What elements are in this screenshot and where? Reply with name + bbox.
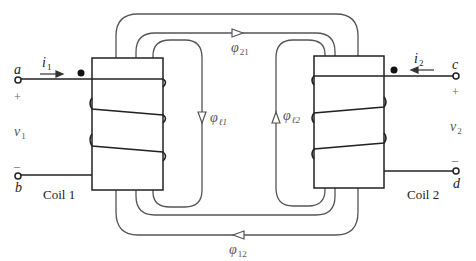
arrow-phil2-icon (272, 112, 280, 123)
voltage-v1-label: v1 (14, 125, 26, 141)
arrow-phil1-icon (198, 112, 206, 123)
flux-path-phi21 (136, 33, 335, 215)
coil2-minus-sign: – (452, 154, 458, 166)
flux-phi21-label: φ21 (231, 41, 249, 57)
terminal-b (15, 173, 21, 179)
flux-phi12-label: φ12 (229, 243, 247, 259)
arrow-phi12-icon (233, 231, 244, 239)
current-i2-label: i2 (414, 52, 423, 68)
coil1-minus-sign: – (14, 160, 20, 172)
coil1-plus-sign: + (14, 91, 21, 103)
current-arrow-i1-icon (56, 71, 63, 77)
coil1-label: Coil 1 (43, 188, 75, 201)
coil2-label: Coil 2 (407, 188, 439, 201)
polarity-dot-coil1 (78, 70, 85, 77)
polarity-dot-coil2 (391, 67, 398, 74)
terminal-c (453, 73, 459, 79)
current-i1-label: i1 (42, 56, 51, 72)
coil1-core (92, 58, 163, 190)
terminal-a (15, 77, 21, 83)
terminal-c-label: c (452, 58, 458, 72)
terminal-d-label: d (453, 177, 460, 191)
flux-phil1-label: φℓ1 (210, 111, 227, 127)
voltage-v2-label: v2 (450, 120, 462, 136)
terminal-b-label: b (15, 181, 22, 195)
arrow-phi21-icon (232, 29, 243, 37)
coil2-plus-sign: + (452, 86, 459, 98)
terminal-d (453, 168, 459, 174)
terminal-a-label: a (14, 63, 21, 77)
flux-phil2-label: φℓ2 (283, 109, 300, 125)
